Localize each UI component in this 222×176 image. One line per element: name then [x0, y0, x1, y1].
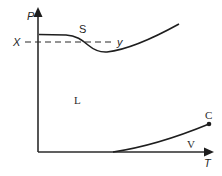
solid-liquid-boundary-curve: [39, 24, 179, 52]
x-axis-label: T: [204, 157, 212, 169]
isobar-start-label: X: [12, 36, 21, 48]
isobar-end-label: y: [116, 36, 124, 48]
liquid-region-label: L: [74, 94, 81, 106]
y-axis-label: P: [27, 10, 35, 22]
critical-point-label: C: [205, 109, 212, 121]
vapor-region-label: V: [187, 138, 195, 150]
y-axis-arrowhead: [34, 7, 43, 17]
critical-point-marker: [207, 122, 212, 127]
x-axis-arrowhead: [204, 148, 214, 157]
phase-diagram: P T X y S L C V: [0, 0, 222, 176]
solid-region-label: S: [79, 23, 86, 35]
